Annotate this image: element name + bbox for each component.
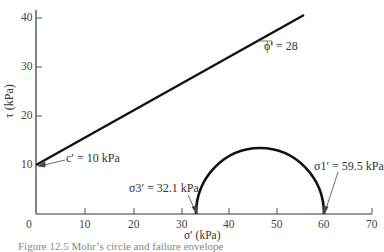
y-tick-10: 10 (21, 159, 33, 171)
friction-angle-label: ϕ′ = 28 (264, 40, 298, 52)
sigma3-label: σ3′ = 32.1 kPa (129, 182, 199, 194)
failure-envelope-line (36, 15, 304, 165)
x-tick-60: 60 (318, 219, 330, 231)
x-tick-0: 0 (26, 219, 32, 231)
y-ticks (36, 18, 42, 116)
x-tick-50: 50 (271, 219, 283, 231)
figure-caption: Figure 12.5 Mohr’s circle and failure en… (18, 240, 223, 252)
cohesion-label: c′ = 10 kPa (66, 152, 120, 164)
y-tick-40: 40 (21, 12, 33, 24)
x-tick-20: 20 (128, 219, 140, 231)
mohr-circle (196, 148, 324, 214)
x-tick-40: 40 (223, 219, 235, 231)
x-ticks (85, 208, 372, 214)
y-tick-30: 30 (21, 61, 33, 73)
sigma1-label: σ1′ = 59.5 kPa (314, 160, 384, 172)
y-tick-20: 20 (21, 110, 33, 122)
x-tick-70: 70 (366, 219, 378, 231)
y-axis-label: τ (kPa) (2, 84, 17, 118)
x-tick-10: 10 (79, 219, 91, 231)
